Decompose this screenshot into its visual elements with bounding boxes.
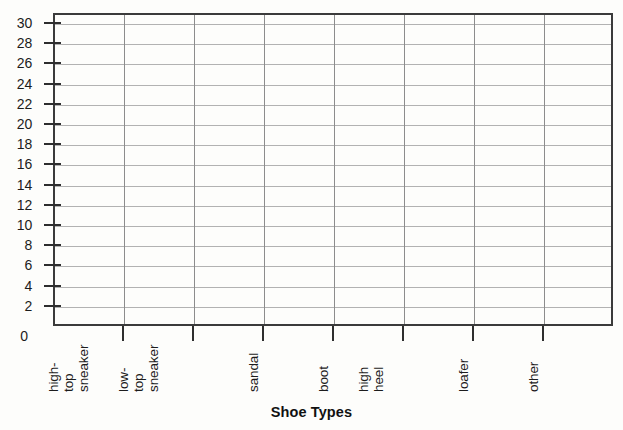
x-category-label-6: other	[526, 362, 541, 392]
y-tick-label-6: 6	[2, 258, 32, 272]
y-tick-label-20: 20	[2, 117, 32, 131]
y-tick-label-14: 14	[2, 178, 32, 192]
x-category-line: low-	[116, 345, 131, 392]
y-tick-mark-16	[44, 163, 61, 165]
x-tick-mark-5	[472, 326, 474, 341]
x-category-label-2: sandal	[246, 353, 261, 392]
gridline-y-24	[55, 85, 611, 86]
gridline-x-1	[194, 15, 195, 324]
gridline-y-4	[55, 287, 611, 288]
x-tick-mark-3	[332, 326, 334, 341]
x-category-label-5: loafer	[456, 359, 471, 392]
y-tick-label-18: 18	[2, 137, 32, 151]
gridline-y-16	[55, 165, 611, 166]
y-tick-mark-24	[44, 83, 61, 85]
gridline-x-6	[544, 15, 545, 324]
y-tick-mark-10	[44, 224, 61, 226]
x-category-label-1: low-topsneaker	[116, 345, 161, 392]
x-tick-mark-2	[262, 326, 264, 341]
y-tick-mark-8	[44, 244, 61, 246]
y-tick-mark-26	[44, 62, 61, 64]
y-tick-mark-18	[44, 143, 61, 145]
shoe-types-bar-chart: 302826242220181614121086420 high-topsnea…	[0, 0, 623, 430]
x-tick-mark-0	[122, 326, 124, 341]
y-tick-label-4: 4	[2, 279, 32, 293]
gridline-y-14	[55, 186, 611, 187]
y-tick-label-0: 0	[0, 329, 28, 343]
x-category-line: boot	[316, 366, 331, 392]
y-tick-mark-12	[44, 204, 61, 206]
gridline-y-26	[55, 64, 611, 65]
x-category-line: other	[526, 362, 541, 392]
x-category-line: sneaker	[146, 345, 161, 392]
x-category-line: high-	[46, 345, 61, 392]
x-category-line: sneaker	[76, 345, 91, 392]
x-category-label-3: boot	[316, 366, 331, 392]
y-tick-label-30: 30	[2, 16, 32, 30]
x-category-label-0: high-topsneaker	[46, 345, 91, 392]
y-tick-mark-4	[44, 285, 61, 287]
y-tick-label-10: 10	[2, 218, 32, 232]
y-tick-mark-2	[44, 305, 61, 307]
y-tick-label-28: 28	[2, 36, 32, 50]
x-category-line: high	[356, 367, 371, 392]
gridline-x-3	[334, 15, 335, 324]
x-category-label-4: highheel	[356, 367, 386, 392]
y-tick-mark-20	[44, 123, 61, 125]
y-tick-mark-6	[44, 264, 61, 266]
y-tick-label-12: 12	[2, 198, 32, 212]
y-tick-label-2: 2	[2, 299, 32, 313]
plot-area	[53, 13, 613, 326]
gridline-x-0	[124, 15, 125, 324]
gridline-y-30	[55, 24, 611, 25]
y-tick-label-16: 16	[2, 157, 32, 171]
gridline-x-4	[404, 15, 405, 324]
gridline-y-10	[55, 226, 611, 227]
y-tick-label-26: 26	[2, 56, 32, 70]
y-tick-mark-28	[44, 42, 61, 44]
gridline-y-12	[55, 206, 611, 207]
gridline-y-20	[55, 125, 611, 126]
x-category-line: top	[131, 345, 146, 392]
x-category-line: sandal	[246, 353, 261, 392]
x-category-line: loafer	[456, 359, 471, 392]
x-tick-mark-1	[192, 326, 194, 341]
x-category-line: heel	[371, 367, 386, 392]
gridline-y-2	[55, 307, 611, 308]
gridline-y-8	[55, 246, 611, 247]
gridline-x-2	[264, 15, 265, 324]
x-tick-mark-4	[402, 326, 404, 341]
y-tick-label-8: 8	[2, 238, 32, 252]
gridline-y-6	[55, 266, 611, 267]
y-tick-label-22: 22	[2, 97, 32, 111]
x-tick-mark-6	[542, 326, 544, 341]
gridline-y-22	[55, 105, 611, 106]
x-category-line: top	[61, 345, 76, 392]
y-tick-mark-30	[44, 22, 61, 24]
y-tick-mark-22	[44, 103, 61, 105]
gridline-y-18	[55, 145, 611, 146]
y-tick-label-24: 24	[2, 77, 32, 91]
gridline-y-28	[55, 44, 611, 45]
gridline-x-5	[474, 15, 475, 324]
x-axis-title: Shoe Types	[0, 404, 623, 420]
y-tick-mark-14	[44, 184, 61, 186]
